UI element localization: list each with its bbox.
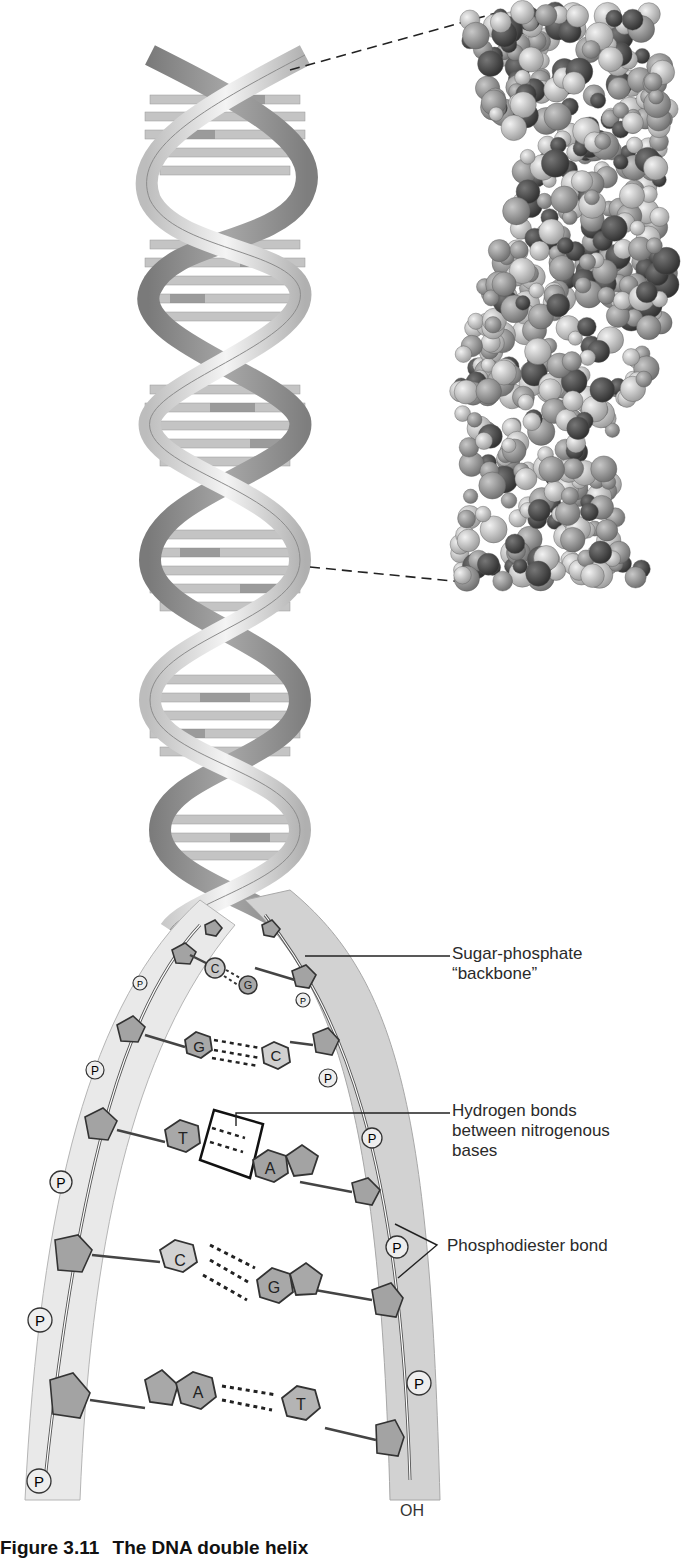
phosphate-icon: P [319,1069,337,1087]
zoom-line-bottom [310,567,463,582]
base-pair-3: T A [165,1110,318,1182]
svg-text:P: P [324,1072,332,1086]
svg-text:P: P [300,996,306,1006]
svg-text:C: C [211,962,220,976]
caption-title: The DNA double helix [113,1537,309,1558]
svg-text:C: C [271,1047,282,1064]
label-line: Phosphodiester bond [447,1236,608,1255]
phosphate-icon: P [296,993,310,1007]
phosphate-icon: P [407,1371,431,1395]
svg-text:A: A [193,1384,204,1401]
phosphate-icon: P [362,1128,382,1148]
base-pair-4: C G [160,1240,322,1303]
label-line: “backbone” [452,964,582,984]
base-pair-1: C G [205,958,257,994]
label-phosphodiester-bond: Phosphodiester bond [447,1236,608,1256]
svg-text:P: P [91,1064,99,1078]
figure-caption: Figure 3.11 The DNA double helix [0,1537,308,1559]
right-backbone-ribbon [245,890,440,1500]
label-sugar-phosphate-backbone: Sugar-phosphate “backbone” [452,944,582,984]
phosphate-icon: P [27,1469,51,1493]
svg-text:A: A [265,1160,276,1177]
caption-number: Figure 3.11 [0,1537,99,1558]
svg-text:P: P [137,979,143,989]
svg-text:P: P [56,1175,65,1191]
svg-text:C: C [174,1252,186,1269]
label-line: bases [452,1141,610,1161]
svg-text:P: P [414,1375,424,1392]
phosphate-icon: P [50,1171,72,1193]
phosphate-icon: P [28,1308,52,1332]
phosphate-icon: P [386,1236,408,1258]
label-line: Hydrogen bonds [452,1101,610,1121]
label-line: Sugar-phosphate [452,944,582,964]
svg-text:G: G [268,1279,280,1296]
base-pair-2: G C [185,1032,290,1069]
svg-text:P: P [35,1312,45,1329]
base-pair-5: A T [145,1370,320,1420]
label-hydrogen-bonds: Hydrogen bonds between nitrogenous bases [452,1101,610,1161]
svg-text:P: P [392,1240,401,1256]
svg-text:G: G [244,979,253,991]
phosphate-icon: P [133,976,147,990]
label-line: between nitrogenous [452,1121,610,1141]
phosphate-icon: P [86,1061,104,1079]
svg-text:P: P [34,1473,44,1490]
oh-terminus: OH [400,1502,424,1519]
leader-hbonds [236,1113,450,1126]
space-filling-model [450,0,680,591]
svg-text:T: T [178,1130,188,1147]
svg-text:G: G [193,1038,205,1055]
ribbon-helix [145,55,307,930]
svg-text:T: T [296,1396,306,1413]
svg-text:P: P [368,1131,377,1146]
